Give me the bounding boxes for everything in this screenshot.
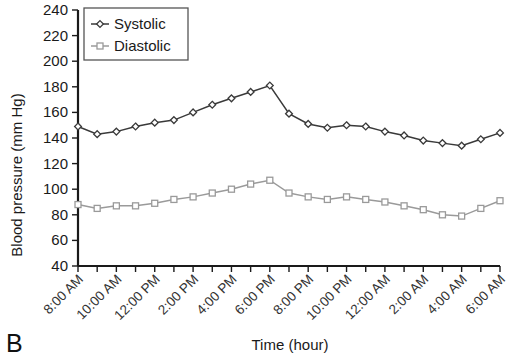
data-point-diastolic [171, 196, 177, 202]
data-series-group [75, 82, 504, 219]
x-axis-tick-label: 6:00 PM [232, 272, 278, 318]
data-point-systolic [171, 117, 178, 124]
data-point-diastolic [401, 203, 407, 209]
data-point-systolic [477, 136, 484, 143]
y-axis: 406080100120140160180200220240 [43, 1, 78, 274]
data-point-diastolic [478, 205, 484, 211]
y-axis-tick-label: 240 [43, 1, 68, 18]
y-axis-tick-label: 180 [43, 78, 68, 95]
data-point-diastolic [190, 194, 196, 200]
data-point-systolic [247, 89, 254, 96]
data-point-systolic [113, 128, 120, 135]
y-axis-tick-label: 80 [51, 206, 68, 223]
y-axis-tick-label: 120 [43, 155, 68, 172]
y-axis-tick-label: 200 [43, 52, 68, 69]
legend-label-systolic: Systolic [114, 15, 166, 32]
data-point-systolic [343, 122, 350, 129]
data-point-systolic [439, 140, 446, 147]
x-axis-tick-label: 6:00 AM [462, 272, 507, 318]
data-point-systolic [209, 101, 216, 108]
data-point-diastolic [305, 194, 311, 200]
y-axis-tick-label: 60 [51, 231, 68, 248]
data-point-diastolic [152, 200, 158, 206]
data-point-diastolic [344, 194, 350, 200]
blood-pressure-line-chart: 406080100120140160180200220240 8:00 AM10… [0, 0, 507, 360]
x-axis: 8:00 AM10:00 AM12:00 PM2:00 PM4:00 PM6:0… [40, 266, 507, 323]
y-axis-tick-label: 160 [43, 103, 68, 120]
data-point-systolic [132, 123, 139, 130]
x-axis-tick-label: 4:00 PM [193, 272, 239, 318]
legend-label-diastolic: Diastolic [114, 37, 171, 54]
y-axis-tick-label: 100 [43, 180, 68, 197]
data-point-diastolic [286, 190, 292, 196]
y-axis-tick-label: 40 [51, 257, 68, 274]
data-point-diastolic [248, 181, 254, 187]
y-axis-tick-label: 140 [43, 129, 68, 146]
data-point-systolic [228, 95, 235, 102]
data-point-systolic [75, 123, 82, 130]
x-axis-tick-label: 2:00 PM [155, 272, 201, 318]
data-point-systolic [151, 119, 158, 126]
data-point-systolic [458, 142, 465, 149]
data-point-systolic [420, 137, 427, 144]
figure-panel-b: 406080100120140160180200220240 8:00 AM10… [0, 0, 507, 360]
data-point-diastolic [75, 202, 81, 208]
data-point-systolic [401, 132, 408, 139]
data-point-systolic [382, 128, 389, 135]
y-axis-tick-label: 220 [43, 27, 68, 44]
data-point-diastolic [228, 186, 234, 192]
x-axis-tick-label: 2:00 AM [386, 272, 432, 318]
data-point-diastolic [267, 177, 273, 183]
x-axis-tick-label: 4:00 AM [424, 272, 470, 318]
data-point-diastolic [133, 203, 139, 209]
data-point-diastolic [497, 198, 503, 204]
data-point-diastolic [459, 213, 465, 219]
data-point-systolic [94, 131, 101, 138]
data-point-systolic [324, 124, 331, 131]
data-point-systolic [190, 109, 197, 116]
data-point-diastolic [439, 212, 445, 218]
data-point-diastolic [113, 203, 119, 209]
data-point-diastolic [363, 196, 369, 202]
series-line-diastolic [78, 180, 500, 216]
data-point-systolic [305, 121, 312, 128]
data-point-diastolic [324, 196, 330, 202]
square-marker-icon [97, 43, 103, 49]
data-point-diastolic [94, 205, 100, 211]
x-axis-title: Time (hour) [252, 336, 329, 353]
data-point-systolic [497, 129, 504, 136]
data-point-diastolic [420, 207, 426, 213]
y-axis-title: Blood pressure (mm Hg) [8, 93, 25, 256]
data-point-diastolic [209, 190, 215, 196]
data-point-diastolic [382, 199, 388, 205]
data-point-systolic [362, 123, 369, 130]
chart-legend: SystolicDiastolic [84, 8, 188, 60]
panel-label: B [6, 329, 23, 357]
